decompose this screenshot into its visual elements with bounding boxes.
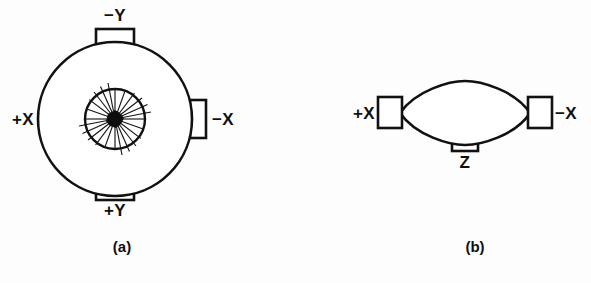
panel-a-label-plus-x: +X bbox=[12, 110, 34, 129]
panel-a-label-plus-y: +Y bbox=[104, 201, 126, 220]
panel-b-label-plus-x: +X bbox=[353, 104, 375, 123]
panel-b-group: +X −X Z (b) bbox=[353, 81, 577, 255]
panel-b-label-z: Z bbox=[460, 153, 471, 172]
panel-b-port-plus-x-rect bbox=[378, 97, 402, 128]
panel-b-body-lens bbox=[400, 81, 530, 145]
panel-a-label-minus-x: −X bbox=[212, 110, 234, 129]
panel-a-label-minus-y: −Y bbox=[104, 6, 126, 25]
technical-diagram-svg: −Y +X −X +Y (a) +X −X Z (b) bbox=[0, 0, 591, 283]
panel-a-group: −Y +X −X +Y (a) bbox=[12, 6, 234, 255]
panel-b-port-minus-x-rect bbox=[528, 97, 552, 128]
panel-b-label-minus-x: −X bbox=[555, 104, 577, 123]
panel-b-caption: (b) bbox=[465, 238, 484, 255]
figure-container: −Y +X −X +Y (a) +X −X Z (b) bbox=[0, 0, 591, 283]
panel-a-caption: (a) bbox=[113, 238, 131, 255]
